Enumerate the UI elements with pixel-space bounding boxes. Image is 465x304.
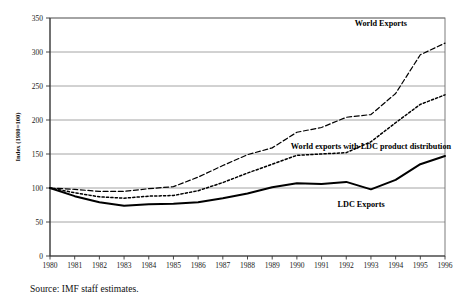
plot-frame — [50, 18, 445, 256]
x-tick-label: 1988 — [240, 261, 255, 270]
x-tick-label: 1984 — [141, 261, 156, 270]
y-tick-label: 0 — [39, 252, 43, 261]
y-axis-title: Index (1980=100) — [14, 113, 22, 162]
series-line — [50, 156, 445, 206]
x-tick-label: 1996 — [438, 261, 453, 270]
data-series — [50, 43, 445, 206]
x-tick-label: 1992 — [339, 261, 354, 270]
y-tick-label: 50 — [36, 218, 44, 227]
line-chart: 050100150200250300350 198019811982198319… — [0, 0, 465, 304]
x-tick-label: 1986 — [191, 261, 206, 270]
plot-border — [50, 18, 445, 256]
x-tick-label: 1982 — [92, 261, 107, 270]
y-tick-label: 250 — [32, 82, 44, 91]
x-tick-label: 1993 — [363, 261, 378, 270]
figure-container: 050100150200250300350 198019811982198319… — [0, 0, 465, 304]
y-tick-label: 200 — [32, 116, 44, 125]
x-tick-label: 1995 — [413, 261, 428, 270]
x-axis-ticks: 1980198119821983198419851986198719881989… — [43, 256, 453, 270]
y-axis-ticks: 050100150200250300350 — [32, 14, 50, 261]
series-label: World Exports — [355, 19, 407, 28]
y-tick-label: 350 — [32, 14, 44, 23]
y-tick-label: 300 — [32, 48, 44, 57]
x-tick-label: 1994 — [388, 261, 403, 270]
y-tick-label: 150 — [32, 150, 44, 159]
source-note: Source: IMF staff estimates. — [30, 283, 139, 294]
y-axis-label: Index (1980=100) — [14, 113, 22, 162]
x-tick-label: 1980 — [43, 261, 58, 270]
x-tick-label: 1987 — [215, 261, 230, 270]
series-label: World exports with LDC product distribut… — [291, 142, 452, 151]
series-label: LDC Exports — [338, 200, 385, 209]
x-tick-label: 1983 — [117, 261, 132, 270]
x-tick-label: 1990 — [289, 261, 304, 270]
x-tick-label: 1985 — [166, 261, 181, 270]
x-tick-label: 1981 — [67, 261, 82, 270]
x-tick-label: 1989 — [265, 261, 280, 270]
y-tick-label: 100 — [32, 184, 44, 193]
grid-lines — [50, 18, 445, 222]
x-tick-label: 1991 — [314, 261, 329, 270]
series-line — [50, 43, 445, 191]
